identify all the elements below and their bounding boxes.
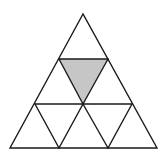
triangle-diagram (0, 0, 165, 160)
inner-segment (35, 104, 59, 148)
inner-segment (108, 104, 132, 148)
inner-segment (83, 104, 108, 148)
inner-segment (59, 104, 83, 148)
shaded-triangle (59, 59, 108, 104)
